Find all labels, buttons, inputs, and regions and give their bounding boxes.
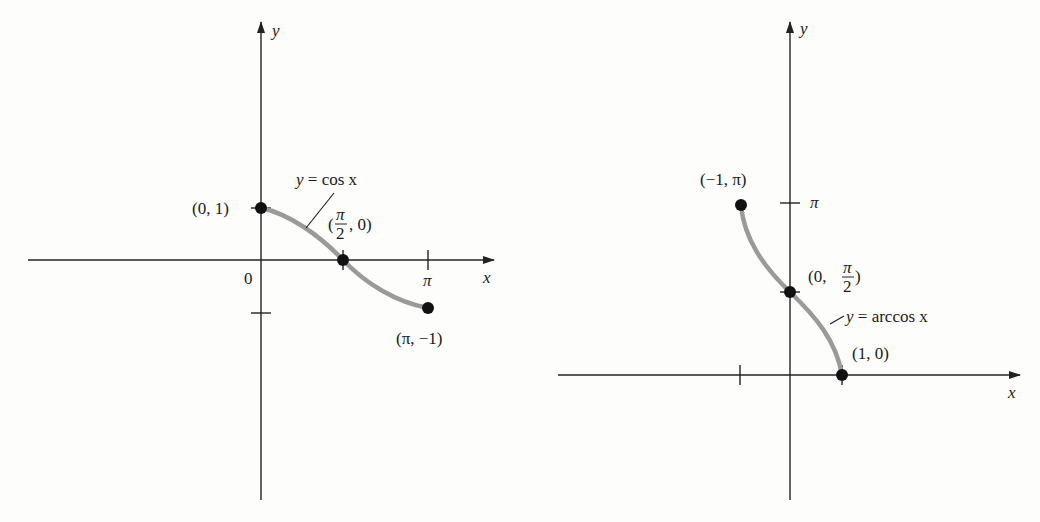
- svg-text:2: 2: [336, 224, 345, 243]
- point-neg1-pi: [735, 199, 747, 211]
- svg-text:(0,: (0,: [808, 267, 826, 286]
- arccos-graph: y x π (−1, π) (1, 0) (0, π 2 ) y = arcco…: [558, 19, 1020, 500]
- cos-curve-label: y = cos x: [294, 170, 358, 228]
- point-0-1: [255, 202, 267, 214]
- left-y-axis-label: y: [270, 21, 280, 40]
- svg-text:, 0): , 0): [349, 215, 372, 234]
- point-1-0: [836, 369, 848, 381]
- figure: y x 0 π (0, 1) (π, −1) ( π 2 , 0) y = co…: [0, 0, 1040, 522]
- svg-text:y = cos x: y = cos x: [294, 170, 358, 189]
- arccos-curve-label: y = arccos x: [830, 307, 928, 326]
- left-x-axis-label: x: [482, 268, 491, 287]
- cos-graph: y x 0 π (0, 1) (π, −1) ( π 2 , 0) y = co…: [28, 21, 494, 500]
- label-0-pi2: (0, π 2 ): [808, 258, 861, 296]
- point-pi-neg1: [422, 302, 434, 314]
- svg-text:): ): [855, 267, 861, 286]
- right-x-axis-label: x: [1007, 383, 1016, 402]
- left-tick-pi-label: π: [423, 271, 432, 290]
- label-pi2-0: ( π 2 , 0): [328, 205, 372, 243]
- svg-text:2: 2: [843, 277, 852, 296]
- svg-text:y = arccos x: y = arccos x: [844, 307, 928, 326]
- svg-text:π: π: [336, 205, 345, 224]
- point-0-pi2: [784, 286, 796, 298]
- label-pi-neg1: (π, −1): [396, 329, 443, 348]
- svg-text:(: (: [328, 215, 334, 234]
- label-1-0: (1, 0): [852, 344, 889, 363]
- right-tick-pi-label: π: [810, 193, 819, 212]
- svg-text:π: π: [843, 258, 852, 277]
- left-origin-label: 0: [244, 269, 253, 288]
- label-neg1-pi: (−1, π): [700, 170, 747, 189]
- point-pi2-0: [337, 254, 349, 266]
- label-0-1: (0, 1): [192, 199, 229, 218]
- right-y-axis-label: y: [798, 19, 808, 38]
